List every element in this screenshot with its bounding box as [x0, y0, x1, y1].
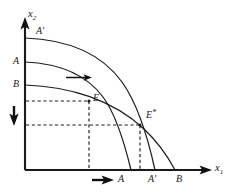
x-axis-label: x1 — [215, 163, 223, 174]
x-intercept-label-B: B — [176, 174, 182, 184]
equilibrium-label-E: E — [93, 93, 99, 103]
y-axis-label: x2 — [28, 9, 36, 20]
x-intercept-label-A: A — [118, 174, 124, 184]
y-intercept-label-B: B — [13, 79, 19, 89]
figure-canvas — [0, 0, 233, 195]
curve-label-A-prime-top: A' — [36, 26, 44, 36]
ppf-figure: x2 x1 A B A' A A' B E E* — [0, 0, 233, 195]
equilibrium-dot-E — [88, 100, 91, 103]
shift-arrow-down-icon — [9, 106, 18, 126]
projection-lines-group — [26, 101, 140, 169]
equilibrium-label-E-star: E* — [146, 110, 156, 120]
equilibrium-dot-E-star — [139, 124, 142, 127]
frontier-curve-A-prime — [25, 38, 155, 170]
y-intercept-label-A: A — [13, 56, 19, 66]
x-intercept-label-A-prime: A' — [148, 174, 156, 184]
frontier-curves-group — [25, 38, 175, 170]
equilibrium-dots-group — [88, 100, 142, 127]
shift-arrow-right-axis-icon — [92, 175, 114, 184]
